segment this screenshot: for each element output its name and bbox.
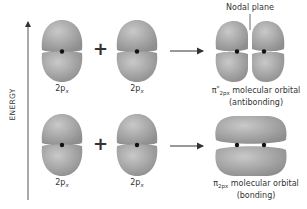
p-orbital-top-right — [117, 20, 158, 82]
mo-subscript: 2px — [218, 183, 228, 189]
label-sub: x — [140, 88, 143, 94]
label-main: 2p — [55, 84, 65, 93]
label-sub: x — [65, 182, 68, 188]
nucleus-dot — [135, 143, 139, 147]
atomic-orbital-label: 2px — [52, 178, 72, 188]
mo-type: (bonding) — [206, 191, 306, 201]
nucleus-dot — [262, 49, 266, 53]
antibonding-mo-graphic — [216, 14, 285, 82]
label-main: 2p — [130, 84, 140, 93]
p-orbital-top-left — [42, 20, 83, 82]
p-orbital-bottom-right — [117, 114, 158, 176]
atomic-orbital-label: 2px — [127, 178, 147, 188]
nucleus-dot — [235, 143, 239, 147]
label-main: 2p — [55, 178, 65, 187]
mo-type: (antibonding) — [206, 98, 306, 108]
plus-sign: + — [93, 38, 108, 59]
nucleus-dot — [135, 49, 139, 53]
atomic-orbital-label: 2px — [127, 84, 147, 94]
mo-name: molecular orbital — [228, 179, 299, 188]
label-sub: x — [140, 182, 143, 188]
label-main: 2p — [130, 178, 140, 187]
nucleus-dot — [60, 143, 64, 147]
atomic-orbital-label: 2px — [52, 84, 72, 94]
antibonding-mo-caption: π*2px molecular orbital (antibonding) — [206, 83, 306, 108]
nodal-plane-label: Nodal plane — [222, 3, 278, 12]
bonding-mo-graphic — [215, 116, 286, 176]
energy-axis-label: ENERGY — [8, 85, 17, 125]
nucleus-dot — [262, 143, 266, 147]
p-orbital-bottom-left — [42, 114, 83, 176]
label-sub: x — [65, 88, 68, 94]
nucleus-dot — [235, 49, 239, 53]
mo-subscript: 2px — [220, 90, 230, 96]
nucleus-dot — [60, 49, 64, 53]
mo-name: molecular orbital — [230, 86, 301, 95]
plus-sign: + — [93, 133, 108, 154]
bonding-mo-caption: π2px molecular orbital (bonding) — [206, 179, 306, 201]
